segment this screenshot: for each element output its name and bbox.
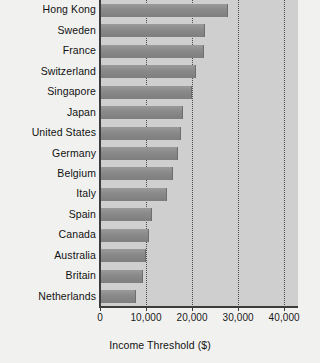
tick-mark-10000 <box>146 307 147 311</box>
category-label: Japan <box>67 106 96 118</box>
tick-mark-0 <box>100 307 101 311</box>
bar <box>100 208 152 221</box>
category-label: Germany <box>52 147 96 159</box>
bar <box>100 167 173 180</box>
tick-label-30000: 30,000 <box>223 312 254 323</box>
bar <box>100 24 205 37</box>
bar <box>100 4 228 17</box>
tick-mark-30000 <box>238 307 239 311</box>
category-label: Australia <box>54 249 96 261</box>
bar <box>100 106 183 119</box>
x-axis-title: Income Threshold ($) <box>0 339 320 351</box>
category-label: Canada <box>59 228 96 240</box>
gridline-30000 <box>238 0 240 307</box>
plot-area <box>100 0 298 307</box>
category-label: Belgium <box>57 167 96 179</box>
bar <box>100 229 149 242</box>
category-label: Britain <box>66 269 96 281</box>
category-label: Sweden <box>57 24 96 36</box>
right-margin <box>298 0 320 307</box>
tick-mark-40000 <box>284 307 285 311</box>
category-label: Singapore <box>47 85 96 97</box>
category-label: France <box>63 44 96 56</box>
tick-label-40000: 40,000 <box>269 312 300 323</box>
tick-label-20000: 20,000 <box>176 312 207 323</box>
category-label: Netherlands <box>38 290 96 302</box>
bar <box>100 147 178 160</box>
category-label: Switzerland <box>41 65 96 77</box>
x-axis-line <box>99 306 298 308</box>
bar <box>100 249 146 262</box>
bar <box>100 127 181 140</box>
category-label: Spain <box>69 208 96 220</box>
bar <box>100 45 204 58</box>
bar-chart-figure: 010,00020,00030,00040,000 Hong KongSwede… <box>0 0 320 363</box>
category-label: United States <box>32 126 96 138</box>
y-axis-line <box>99 0 101 308</box>
gridline-40000 <box>284 0 286 307</box>
bar <box>100 188 167 201</box>
category-label: Italy <box>76 187 96 199</box>
category-label: Hong Kong <box>43 3 96 15</box>
bar <box>100 65 196 78</box>
bar <box>100 290 136 303</box>
tick-label-0: 0 <box>97 312 103 323</box>
tick-mark-20000 <box>192 307 193 311</box>
bar <box>100 270 143 283</box>
bar <box>100 86 192 99</box>
tick-label-10000: 10,000 <box>130 312 161 323</box>
